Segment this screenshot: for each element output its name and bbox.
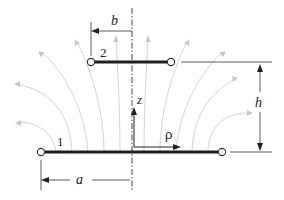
- dimension-b: b: [91, 13, 132, 56]
- dim-b-label: b: [111, 13, 118, 28]
- dim-a-label: a: [76, 172, 83, 187]
- coaxial-disks-diagram: 2 1 b a h z ρ: [0, 0, 284, 200]
- lower-disk-right-edge: [218, 148, 225, 155]
- rho-axis-label: ρ: [165, 127, 172, 142]
- dimension-h: h: [181, 62, 272, 152]
- lower-disk-left-edge: [37, 148, 44, 155]
- upper-disk-left-edge: [87, 58, 94, 65]
- coordinate-axes: z ρ: [131, 92, 181, 150]
- dimension-a: a: [41, 160, 130, 190]
- upper-disk-right-edge: [167, 58, 174, 65]
- arrow-down-icon: [257, 143, 263, 151]
- z-axis-label: z: [136, 92, 142, 107]
- dim-h-label: h: [255, 95, 262, 110]
- lower-disk-label: 1: [57, 134, 64, 149]
- arrow-left-icon: [41, 177, 49, 183]
- upper-disk-label: 2: [100, 45, 107, 60]
- lower-disk: 1: [37, 134, 225, 156]
- arrow-left-icon: [91, 28, 99, 34]
- arrow-up-icon: [257, 64, 263, 72]
- upper-disk: 2: [87, 45, 174, 66]
